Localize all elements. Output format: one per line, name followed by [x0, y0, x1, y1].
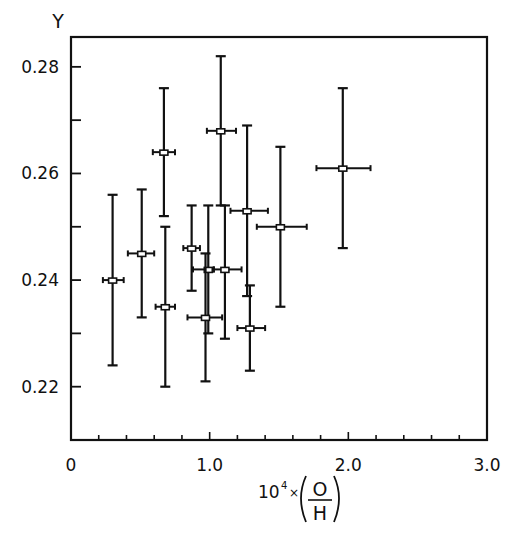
square-marker [221, 267, 229, 272]
x-tick-label: 1.0 [196, 455, 223, 475]
y-tick-label: 0.22 [21, 377, 59, 397]
square-marker [138, 251, 146, 256]
square-marker [109, 278, 117, 283]
y-tick-label: 0.24 [21, 270, 59, 290]
y-axis-tick-labels: 0.220.240.260.28 [21, 57, 59, 397]
square-marker [161, 305, 169, 310]
data-point [316, 88, 370, 248]
data-point [257, 147, 307, 307]
square-marker [243, 209, 251, 214]
x-axis-ticks [99, 432, 460, 440]
data-point [156, 227, 175, 387]
data-point [153, 88, 175, 216]
y-axis-ticks [71, 67, 81, 387]
square-marker [246, 326, 254, 331]
x-axis-title-numerator: O [313, 478, 328, 500]
x-axis-title-times: × [289, 486, 299, 500]
x-axis-title: 10 4 × O H [258, 476, 339, 524]
x-axis-tick-labels: 01.02.03.0 [66, 455, 501, 475]
square-marker [202, 315, 210, 320]
x-axis-title-right-paren [334, 476, 339, 522]
square-marker [160, 150, 168, 155]
data-point [128, 189, 154, 317]
x-axis-title-left-paren [301, 476, 306, 522]
chart: 0.220.240.260.28 01.02.03.0 Y 10 4 × O H [0, 0, 528, 547]
x-axis-title-exponent: 4 [281, 480, 287, 491]
plot-frame [71, 37, 487, 440]
square-marker [217, 129, 225, 134]
x-tick-label: 3.0 [473, 455, 500, 475]
data-point [230, 125, 267, 296]
square-marker [188, 246, 196, 251]
data-point [214, 205, 242, 338]
x-axis-title-prefix: 10 [258, 482, 280, 502]
y-tick-label: 0.28 [21, 57, 59, 77]
square-marker [339, 166, 347, 171]
square-marker [276, 225, 284, 230]
data-point [193, 205, 214, 333]
y-axis-title: Y [51, 10, 64, 32]
x-tick-label: 0 [66, 455, 77, 475]
data-points [103, 56, 371, 387]
y-tick-label: 0.26 [21, 163, 59, 183]
x-tick-label: 2.0 [335, 455, 362, 475]
data-point [103, 195, 124, 366]
data-point [183, 205, 200, 290]
x-axis-title-denominator: H [313, 502, 327, 524]
data-point [207, 56, 236, 205]
data-point [237, 285, 265, 370]
